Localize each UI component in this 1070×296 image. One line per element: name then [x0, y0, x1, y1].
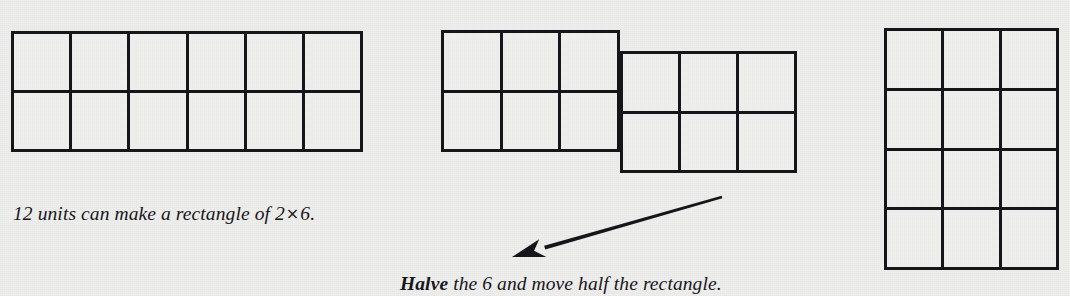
unit-square: [887, 151, 944, 211]
unit-square: [739, 54, 797, 114]
unit-square: [503, 93, 562, 153]
unit-square: [681, 114, 739, 174]
caption-second: Halve the 6 and move half the rectangle.: [400, 273, 722, 295]
figure-split-right-half: [620, 51, 797, 173]
unit-square: [887, 31, 944, 91]
unit-square: [623, 114, 681, 174]
unit-square: [247, 93, 305, 152]
unit-square: [444, 33, 503, 93]
arrow-head: [512, 239, 546, 257]
unit-square: [1002, 151, 1059, 211]
unit-square: [444, 93, 503, 153]
figure-rectangle-4x3: [884, 28, 1059, 270]
unit-square: [944, 151, 1001, 211]
unit-square: [72, 93, 130, 152]
unit-square: [130, 93, 188, 152]
diagram-canvas: 12 units can make a rectangle of 2×6. Ha…: [0, 0, 1070, 296]
caption-first: 12 units can make a rectangle of 2×6.: [13, 203, 315, 225]
unit-square: [944, 210, 1001, 270]
caption-first-text-before: 12 units can make a rectangle of 2: [13, 203, 285, 224]
unit-square: [503, 33, 562, 93]
unit-square: [189, 93, 247, 152]
unit-square: [305, 93, 363, 152]
unit-square: [14, 34, 72, 93]
figure-split-left-half: [441, 30, 620, 152]
unit-square: [189, 34, 247, 93]
unit-square: [1002, 210, 1059, 270]
caption-second-lead-word: Halve: [400, 273, 448, 294]
unit-square: [739, 114, 797, 174]
unit-square: [1002, 31, 1059, 91]
arrow-shaft: [544, 196, 722, 250]
unit-square: [681, 54, 739, 114]
unit-square: [72, 34, 130, 93]
unit-square: [887, 210, 944, 270]
unit-square: [887, 91, 944, 151]
unit-square: [305, 34, 363, 93]
unit-square: [561, 33, 620, 93]
unit-square: [130, 34, 188, 93]
figure-rectangle-2x6: [11, 31, 363, 152]
caption-first-text-after: 6.: [300, 203, 315, 224]
unit-square: [623, 54, 681, 114]
multiplication-sign-icon: ×: [285, 204, 301, 223]
caption-second-rest: the 6 and move half the rectangle.: [448, 273, 722, 294]
unit-square: [14, 93, 72, 152]
unit-square: [944, 91, 1001, 151]
unit-square: [247, 34, 305, 93]
unit-square: [561, 93, 620, 153]
unit-square: [1002, 91, 1059, 151]
unit-square: [944, 31, 1001, 91]
